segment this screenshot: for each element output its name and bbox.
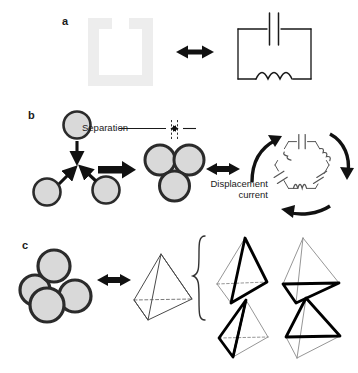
assembly-arrow xyxy=(59,171,72,184)
panel-label-c: c xyxy=(22,240,28,251)
highlighted-face xyxy=(231,238,267,303)
hexagonal-lc-circuit xyxy=(274,135,330,189)
panel-c-graphics xyxy=(0,0,358,373)
tetrahedron-edges xyxy=(134,254,192,320)
highlighted-face xyxy=(283,283,339,303)
sphere-trimer xyxy=(145,145,204,201)
arrow-head xyxy=(268,135,282,147)
double-headed-arrow-c xyxy=(97,274,131,286)
separation-label: Separation xyxy=(82,123,128,134)
separation-callout xyxy=(119,120,196,140)
assembly-arrow xyxy=(84,170,96,181)
sphere-tetramer xyxy=(20,250,91,322)
curly-brace xyxy=(193,236,205,320)
tetrahedron-face-bottom xyxy=(283,238,339,303)
highlighted-face xyxy=(219,300,246,357)
arrow-head xyxy=(281,205,295,218)
sphere xyxy=(174,145,204,175)
panel-label-b: b xyxy=(28,110,35,121)
panel-a-graphics xyxy=(0,0,358,373)
thin-edge xyxy=(286,298,340,358)
highlighted-face xyxy=(286,298,340,337)
tetrahedron xyxy=(134,254,192,320)
displacement-current-label-line2: current xyxy=(200,190,268,201)
tetrahedron-hidden-edge xyxy=(134,299,192,300)
arrow-head xyxy=(340,167,354,180)
thin-edge xyxy=(233,300,268,357)
tetrahedron-face-right xyxy=(217,238,267,303)
sphere xyxy=(38,250,70,282)
double-headed-arrow-b xyxy=(206,163,240,175)
lc-circuit xyxy=(238,13,311,79)
circulating-current-arrow-group xyxy=(252,134,354,218)
split-ring-resonator xyxy=(88,18,153,86)
circulating-current-arrow xyxy=(330,134,348,172)
hidden-edge xyxy=(217,282,267,284)
sphere xyxy=(145,145,175,175)
thin-edge xyxy=(283,238,339,303)
circulating-current-arrow xyxy=(288,206,330,214)
process-arrow xyxy=(98,161,136,179)
sphere xyxy=(34,179,61,206)
sphere xyxy=(20,275,50,305)
sphere xyxy=(30,288,64,322)
sphere xyxy=(93,177,120,204)
tetrahedron-face-left xyxy=(219,300,268,357)
thin-edge xyxy=(217,238,245,303)
circulating-current-arrow xyxy=(252,140,276,182)
tetrahedron-face-front xyxy=(286,298,340,358)
hidden-edge xyxy=(219,337,268,338)
panel-label-a: a xyxy=(62,16,68,27)
panel-b-graphics xyxy=(0,0,358,373)
bold-edge xyxy=(233,300,246,357)
double-headed-arrow-a xyxy=(176,46,214,59)
sphere xyxy=(160,171,190,201)
assembly-arrow-group xyxy=(59,141,96,184)
sphere xyxy=(59,280,91,312)
figure-root: a xyxy=(0,0,358,373)
